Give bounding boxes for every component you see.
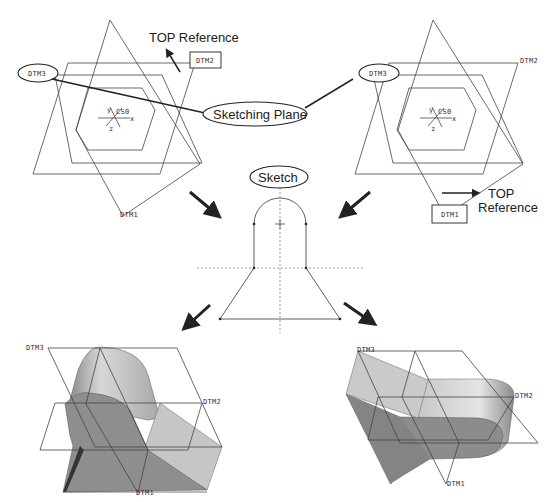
top-reference-label: TOP Reference — [149, 30, 239, 45]
leader-line-right — [305, 79, 353, 108]
flow-arrow-sketch-to-bottom-left — [188, 305, 210, 325]
datum-view-left: y CS0 x z DTM1 DTM2 DTM3 TOP Reference — [18, 20, 239, 219]
dtm2-label: DTM2 — [203, 398, 221, 406]
dtm1-label: DTM1 — [447, 480, 465, 488]
sketching-plane-label: Sketching Plane — [213, 107, 307, 122]
axis-z-label: z — [431, 125, 436, 133]
diagram-canvas: y CS0 x z DTM1 DTM2 DTM3 TOP Reference S… — [0, 0, 558, 502]
csys-label: CS0 — [116, 108, 130, 116]
hex-outline — [397, 88, 476, 150]
solid-view-right: DTM3 DTM2 DTM1 — [346, 346, 538, 488]
csys-label: CS0 — [438, 108, 452, 116]
top-reference-label-1: TOP — [488, 186, 515, 201]
hex-outline — [76, 88, 155, 150]
dtm3-label: DTM3 — [357, 346, 375, 354]
dtm1-label: DTM1 — [441, 211, 459, 219]
axis-y-label: y — [107, 106, 112, 114]
datum-view-right: y CS0 x z DTM2 DTM3 DTM1 TOP Reference — [355, 20, 538, 223]
sketch-view: Sketch — [197, 166, 365, 333]
dtm2-label: DTM2 — [520, 57, 538, 65]
dtm2-label: DTM2 — [515, 392, 533, 400]
axis-x-label: x — [452, 115, 457, 123]
dtm1-label: DTM1 — [120, 211, 138, 219]
dtm2-label: DTM2 — [196, 57, 214, 65]
dtm3-label: DTM3 — [28, 70, 46, 78]
solid-view-left: DTM3 DTM2 DTM1 — [26, 344, 222, 497]
flow-arrow-right-to-sketch — [345, 192, 370, 213]
flow-arrow-sketch-to-bottom-right — [344, 303, 370, 321]
dtm3-label: DTM3 — [26, 344, 44, 352]
axis-z-label: z — [109, 125, 114, 133]
axis-y-label: y — [429, 106, 434, 114]
dtm1-label: DTM1 — [136, 489, 154, 497]
top-reference-arrow — [168, 52, 180, 72]
sketch-label: Sketch — [258, 170, 298, 185]
flow-arrow-left-to-sketch — [190, 192, 215, 213]
dtm3-label: DTM3 — [369, 70, 387, 78]
axis-x-label: x — [130, 115, 135, 123]
top-reference-label-2: Reference — [478, 200, 538, 215]
